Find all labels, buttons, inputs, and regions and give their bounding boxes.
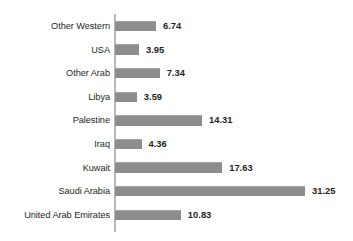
bar-value-label: 31.25 [312, 183, 335, 199]
bar [115, 139, 142, 150]
bar-value-label: 4.36 [149, 136, 167, 152]
category-label: United Arab Emirates [0, 207, 110, 223]
bar [115, 162, 222, 173]
bar-group: 17.63 [115, 160, 253, 176]
bar-value-label: 14.31 [209, 112, 232, 128]
category-label: Iraq [0, 136, 110, 152]
bar-value-label: 3.95 [146, 42, 164, 58]
bar-group: 10.83 [115, 207, 211, 223]
bar [115, 21, 156, 32]
category-label: Saudi Arabia [0, 183, 110, 199]
bar-group: 4.36 [115, 136, 167, 152]
bar-group: 31.25 [115, 183, 335, 199]
bar-group: 3.95 [115, 42, 164, 58]
bar-group: 6.74 [115, 18, 181, 34]
bar-rows-container: Other Western6.74USA3.95Other Arab7.34Li… [0, 0, 353, 241]
bar-row: USA3.95 [0, 42, 353, 58]
bar-value-label: 6.74 [163, 18, 181, 34]
bar-group: 3.59 [115, 89, 162, 105]
bar-group: 7.34 [115, 65, 185, 81]
bar-value-label: 10.83 [188, 207, 211, 223]
category-label: Other Western [0, 18, 110, 34]
bar [115, 92, 137, 103]
bar-row: Iraq4.36 [0, 136, 353, 152]
category-label: Other Arab [0, 65, 110, 81]
bar-value-label: 3.59 [144, 89, 162, 105]
bar-row: Saudi Arabia31.25 [0, 183, 353, 199]
bar [115, 210, 181, 221]
bar [115, 68, 160, 79]
category-label: Libya [0, 89, 110, 105]
bar-row: United Arab Emirates10.83 [0, 207, 353, 223]
bar-value-label: 17.63 [229, 160, 252, 176]
bar-row: Palestine14.31 [0, 112, 353, 128]
bar-row: Libya3.59 [0, 89, 353, 105]
category-label: Palestine [0, 112, 110, 128]
bar-row: Other Arab7.34 [0, 65, 353, 81]
category-label: USA [0, 42, 110, 58]
bar-chart: Other Western6.74USA3.95Other Arab7.34Li… [0, 0, 353, 241]
bar-row: Other Western6.74 [0, 18, 353, 34]
bar-value-label: 7.34 [167, 65, 185, 81]
bar-row: Kuwait17.63 [0, 160, 353, 176]
bar [115, 44, 139, 55]
category-label: Kuwait [0, 160, 110, 176]
bar-group: 14.31 [115, 112, 232, 128]
bar [115, 115, 202, 126]
bar [115, 186, 305, 197]
